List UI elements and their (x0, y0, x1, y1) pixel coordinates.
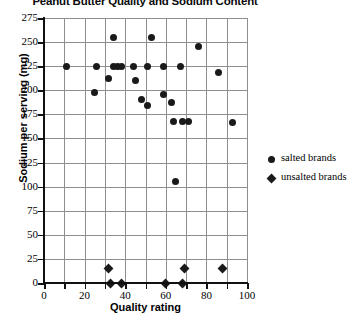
x-tick (146, 283, 148, 289)
data-point-unsalted (179, 264, 189, 274)
legend-label: unsalted brands (281, 171, 347, 182)
y-tick-label: 275 (0, 11, 38, 23)
y-tick-label: 50 (0, 228, 38, 240)
x-axis-title: Quality rating (44, 301, 247, 313)
gridline-vertical (227, 18, 228, 283)
y-tick (38, 259, 44, 261)
x-tick (227, 283, 229, 289)
gridline-vertical (247, 18, 248, 283)
data-point-salted (195, 43, 202, 50)
data-point-salted (132, 77, 139, 84)
y-tick-label: 25 (0, 252, 38, 264)
y-tick-label: 250 (0, 35, 38, 47)
gridline-vertical (64, 18, 65, 283)
y-tick (38, 187, 44, 189)
y-tick (38, 235, 44, 237)
circle-marker-icon (268, 156, 275, 163)
data-point-salted (130, 63, 137, 70)
x-tick (186, 283, 188, 289)
x-tick (64, 283, 66, 289)
gridline-vertical (146, 18, 147, 283)
data-point-salted (172, 178, 179, 185)
y-tick (38, 66, 44, 68)
data-point-salted (160, 63, 167, 70)
plot-area (44, 18, 247, 283)
data-point-salted (144, 102, 151, 109)
y-axis-title: Sodium per serving (mg) (17, 48, 29, 188)
data-point-salted (144, 63, 151, 70)
legend-label: salted brands (281, 152, 336, 163)
x-tick-label: 20 (79, 289, 90, 301)
gridline-vertical (186, 18, 187, 283)
x-tick-label: 0 (41, 289, 47, 301)
y-axis-line (43, 17, 45, 284)
data-point-salted (215, 69, 222, 76)
data-point-salted (118, 63, 125, 70)
data-point-salted (148, 34, 155, 41)
x-tick-label: 100 (239, 289, 256, 301)
chart-title: Peanut Butter Quality and Sodium Content (0, 0, 290, 7)
y-tick-label: 0 (0, 276, 38, 288)
gridline-vertical (166, 18, 167, 283)
data-point-salted (110, 34, 117, 41)
y-tick (38, 42, 44, 44)
data-point-salted (105, 75, 112, 82)
x-tick-label: 60 (160, 289, 171, 301)
diamond-marker-icon (267, 174, 277, 184)
y-tick (38, 163, 44, 165)
x-tick-label: 40 (120, 289, 131, 301)
x-tick-label: 80 (201, 289, 212, 301)
x-tick (105, 283, 107, 289)
chart-container: Peanut Butter Quality and Sodium Content… (0, 0, 362, 314)
gridline-vertical (105, 18, 106, 283)
data-point-salted (229, 119, 236, 126)
y-tick (38, 90, 44, 92)
data-point-salted (91, 89, 98, 96)
gridline-vertical (85, 18, 86, 283)
y-tick (38, 211, 44, 213)
y-tick (38, 114, 44, 116)
y-tick (38, 18, 44, 20)
gridline-vertical (125, 18, 126, 283)
data-point-salted (63, 63, 70, 70)
data-point-salted (93, 63, 100, 70)
gridline-vertical (206, 18, 207, 283)
data-point-salted (170, 118, 177, 125)
data-point-salted (160, 91, 167, 98)
y-tick (38, 138, 44, 140)
data-point-salted (168, 99, 175, 106)
data-point-salted (185, 118, 192, 125)
data-point-salted (177, 63, 184, 70)
y-tick-label: 75 (0, 204, 38, 216)
